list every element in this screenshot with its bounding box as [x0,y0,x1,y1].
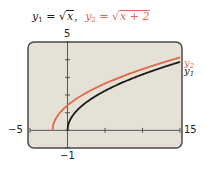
legend-y1: y1 [184,65,194,78]
x-max-label: 15 [184,124,197,135]
y-min-label: −1 [60,150,75,161]
graph-screen [0,0,205,169]
x-min-label: −5 [8,124,23,135]
y-max-label: 5 [64,28,70,39]
